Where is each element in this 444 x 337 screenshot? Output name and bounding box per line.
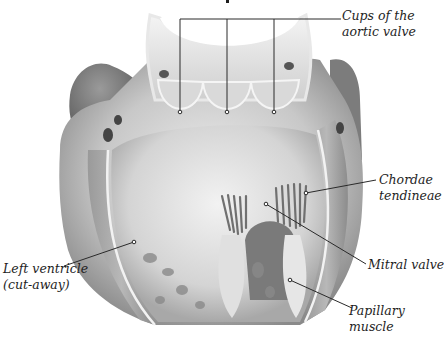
label-mitral-valve: Mitral valve (368, 257, 444, 273)
label-papillary-muscle: Papillary muscle (349, 303, 405, 335)
label-line: Cups of the (342, 8, 416, 24)
label-cups-aortic-valve: Cups of the aortic valve (342, 8, 416, 40)
label-line: Mitral valve (368, 257, 444, 273)
label-line: (cut-away) (3, 277, 88, 293)
label-line: aortic valve (342, 24, 416, 40)
label-line: tendineae (379, 188, 442, 204)
label-line: Left ventricle (3, 261, 88, 277)
label-line: muscle (349, 319, 405, 335)
aortic-cusps (158, 80, 299, 109)
label-line: Chordae (379, 172, 442, 188)
label-chordae-tendineae: Chordae tendineae (379, 172, 442, 204)
label-left-ventricle: Left ventricle (cut-away) (3, 261, 88, 293)
label-line: Papillary (349, 303, 405, 319)
